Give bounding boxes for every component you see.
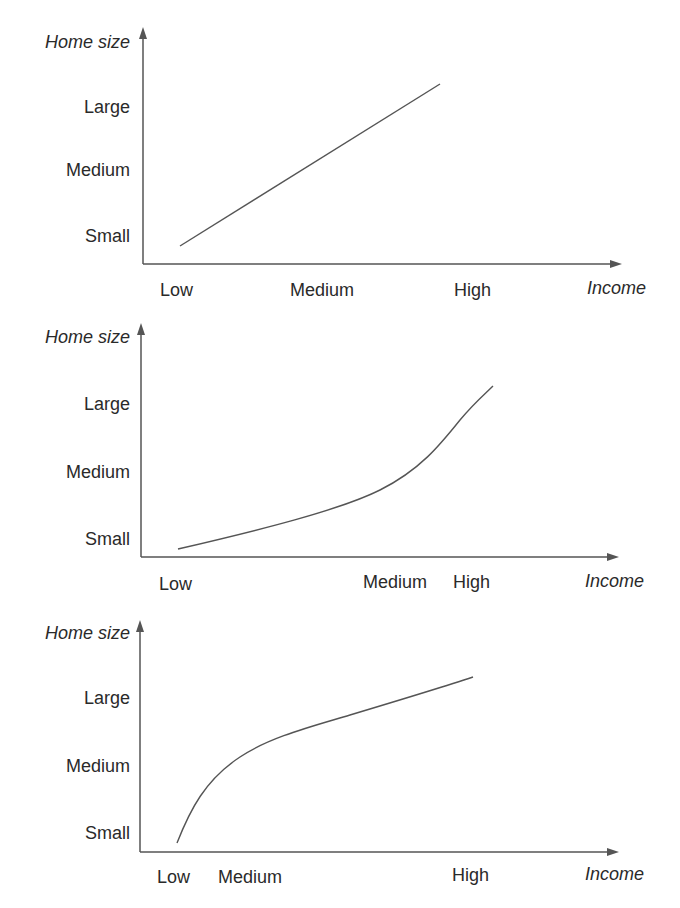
x-tick-medium: Medium bbox=[218, 868, 282, 886]
chart-panel-concave: Home size Large Medium Small Low Medium … bbox=[0, 0, 680, 908]
y-tick-small: Small bbox=[0, 824, 130, 842]
y-axis-arrow-icon bbox=[136, 620, 144, 632]
x-tick-low: Low bbox=[157, 868, 190, 886]
y-axis-title: Home size bbox=[0, 624, 130, 642]
y-tick-medium: Medium bbox=[0, 757, 130, 775]
x-axis-title: Income bbox=[585, 865, 644, 883]
x-axis-arrow-icon bbox=[607, 848, 619, 856]
data-line bbox=[177, 677, 473, 843]
x-tick-high: High bbox=[452, 866, 489, 884]
y-tick-large: Large bbox=[0, 689, 130, 707]
